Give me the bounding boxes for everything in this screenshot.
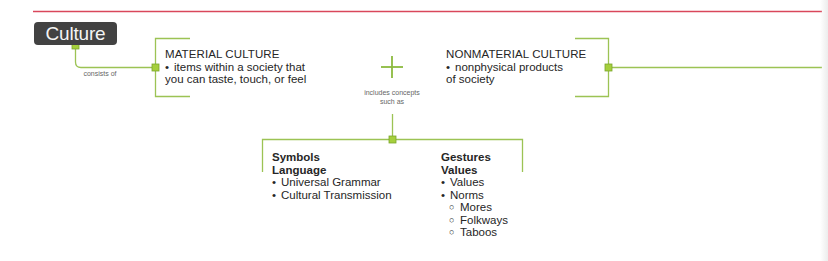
example-item-label: Universal Grammar [281, 176, 381, 189]
edge-label-line: includes concepts [352, 89, 432, 98]
connector-root-to-material [76, 45, 156, 68]
example-subitem-label: Taboos [460, 226, 497, 239]
description-line: of society [446, 73, 586, 86]
bullet-icon: • [272, 176, 281, 189]
bullet-icon: • [441, 176, 450, 189]
example-item: • Universal Grammar [272, 176, 392, 189]
node-nonmaterial-culture [605, 64, 612, 71]
example-subitem-label: Folkways [460, 214, 508, 227]
root-concept-culture: Culture [34, 22, 117, 45]
example-item: • Cultural Transmission [272, 189, 392, 202]
examples-gestures-values: Gestures Values • Values • Norms ○ Mores… [441, 151, 508, 239]
node-examples [389, 136, 396, 143]
bullet-icon: • [446, 61, 455, 74]
diagram-connectors [0, 0, 828, 261]
edge-label-line: such as [352, 98, 432, 107]
description-line: items within a society that [174, 61, 305, 74]
bullet-icon: • [272, 189, 281, 202]
example-item-label: Norms [450, 189, 484, 202]
page-edge-shadow [820, 0, 828, 261]
edge-label-text: consists of [83, 70, 116, 77]
example-heading: Language [272, 164, 392, 177]
edge-label-includes-concepts: includes concepts such as [352, 89, 432, 106]
bullet-icon: • [165, 61, 174, 74]
example-item-label: Cultural Transmission [281, 189, 392, 202]
hollow-bullet-icon: ○ [449, 201, 460, 214]
concept-description: • items within a society that [165, 61, 306, 74]
edge-label-consists-of: consists of [70, 70, 130, 79]
plus-icon [381, 56, 403, 78]
concept-title: NONMATERIAL CULTURE [446, 48, 586, 61]
concept-material-culture: MATERIAL CULTURE • items within a societ… [165, 48, 306, 86]
example-subitem: ○ Folkways [441, 214, 508, 227]
root-label: Culture [46, 23, 106, 44]
example-item: • Values [441, 176, 508, 189]
hollow-bullet-icon: ○ [449, 214, 460, 227]
example-subitem: ○ Taboos [441, 226, 508, 239]
examples-symbols-language: Symbols Language • Universal Grammar • C… [272, 151, 392, 201]
bullet-icon: • [441, 189, 450, 202]
example-heading: Gestures [441, 151, 508, 164]
example-item-label: Values [450, 176, 484, 189]
description-line: you can taste, touch, or feel [165, 73, 306, 86]
example-subitem-label: Mores [460, 201, 492, 214]
example-item: • Norms [441, 189, 508, 202]
description-line: nonphysical products [455, 61, 563, 74]
concept-nonmaterial-culture: NONMATERIAL CULTURE • nonphysical produc… [446, 48, 586, 86]
node-material-culture [152, 64, 159, 71]
hollow-bullet-icon: ○ [449, 226, 460, 239]
concept-title: MATERIAL CULTURE [165, 48, 306, 61]
example-heading: Values [441, 164, 508, 177]
concept-description: • nonphysical products [446, 61, 586, 74]
example-subitem: ○ Mores [441, 201, 508, 214]
example-heading: Symbols [272, 151, 392, 164]
